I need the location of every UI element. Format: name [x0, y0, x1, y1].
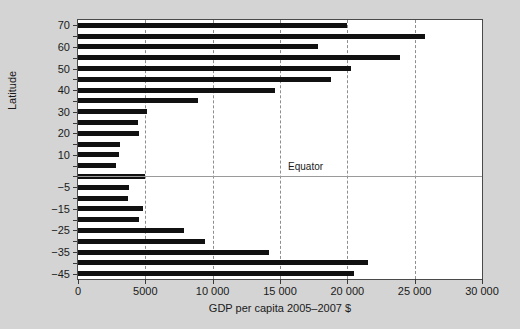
bar-lat-65	[78, 34, 425, 39]
bar-lat--30	[78, 239, 205, 244]
y-tick-label-50: 50	[30, 64, 70, 75]
plot-area: Equator	[77, 19, 483, 280]
y-axis-title: Latitude	[6, 71, 18, 110]
y-tick-label--45: −45	[30, 269, 70, 280]
bar-lat-35	[78, 98, 198, 103]
bar-lat--5	[78, 185, 129, 190]
y-tick-label-60: 60	[30, 42, 70, 53]
x-tick-label-30000: 30 000	[447, 285, 517, 297]
bar-lat--10	[78, 196, 128, 201]
y-tick-label-70: 70	[30, 20, 70, 31]
bar-lat--40	[78, 260, 368, 265]
bar-lat-15	[78, 142, 120, 147]
x-tick-label-20000: 20 000	[312, 285, 382, 297]
y-tick-label-30: 30	[30, 107, 70, 118]
y-tick-label--5: −5	[30, 182, 70, 193]
y-tick-label-40: 40	[30, 85, 70, 96]
x-tick-label-25000: 25 000	[380, 285, 450, 297]
x-axis-title: GDP per capita 2005–2007 $	[77, 302, 483, 314]
bar-lat--15	[78, 206, 143, 211]
gridline-x-30000	[482, 20, 483, 279]
bar-lat--35	[78, 250, 269, 255]
bar-lat-20	[78, 131, 139, 136]
equator-line	[78, 176, 482, 177]
bar-lat-55	[78, 55, 400, 60]
x-tick-label-5000: 5000	[110, 285, 180, 297]
equator-label: Equator	[288, 161, 323, 172]
x-tick-label-10000: 10 000	[178, 285, 248, 297]
gridline-x-25000	[415, 20, 416, 279]
bar-lat--45	[78, 271, 354, 276]
bar-lat-5	[78, 163, 116, 168]
bar-lat-30	[78, 109, 147, 114]
y-tick-label-20: 20	[30, 128, 70, 139]
y-tick-label-10: 10	[30, 150, 70, 161]
bar-lat--25	[78, 228, 184, 233]
bar-lat-25	[78, 120, 138, 125]
chart-figure: Latitude Equator 70605040302010−5−15−25−…	[0, 0, 520, 329]
bar-lat--20	[78, 217, 139, 222]
bar-lat-60	[78, 44, 318, 49]
x-tick-label-0: 0	[43, 285, 113, 297]
bar-lat-70	[78, 23, 347, 28]
bar-lat-10	[78, 152, 119, 157]
y-tick-label--35: −35	[30, 247, 70, 258]
bar-lat-40	[78, 88, 275, 93]
y-tick-label--25: −25	[30, 225, 70, 236]
bar-lat-50	[78, 66, 351, 71]
x-tick-label-15000: 15 000	[245, 285, 315, 297]
bar-lat-45	[78, 77, 331, 82]
y-tick-label--15: −15	[30, 204, 70, 215]
